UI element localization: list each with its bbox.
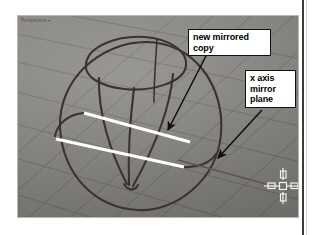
page-edge-rule (302, 0, 304, 235)
arrow-to-mirror-plane (218, 110, 262, 158)
page-canvas: Perspective▾ new mirrored copy x axis mi… (0, 0, 315, 235)
page-edge-rule-secondary (306, 0, 307, 235)
callout-new-mirrored-copy: new mirrored copy (188, 29, 271, 56)
arrow-to-mirrored-copy (168, 52, 208, 130)
callout-x-axis-mirror-plane: x axis mirror plane (245, 70, 296, 108)
